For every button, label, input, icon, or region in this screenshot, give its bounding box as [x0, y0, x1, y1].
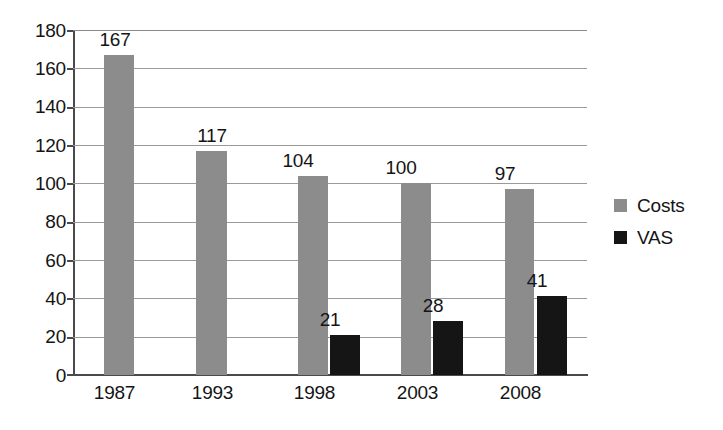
bar-value-label: 41	[501, 271, 573, 290]
bar-group	[93, 30, 179, 375]
bar-costs	[104, 55, 134, 375]
x-axis-tick-label: 2008	[478, 382, 563, 404]
x-axis-tick-label: 1998	[272, 382, 357, 404]
bar-vas	[330, 335, 360, 375]
legend: Costs VAS	[614, 190, 719, 254]
y-axis-tick-label: 60	[4, 251, 66, 270]
x-axis-tick-label: 1993	[170, 382, 255, 404]
bar-costs	[196, 151, 227, 375]
legend-item-vas: VAS	[614, 222, 719, 252]
bar-vas	[433, 321, 463, 375]
y-axis-tick-label: 120	[4, 136, 66, 155]
y-axis-tick-label: 0	[4, 366, 66, 385]
y-axis-tick-label: 140	[4, 97, 66, 116]
legend-item-costs: Costs	[614, 190, 719, 220]
bar-value-label: 100	[365, 158, 437, 177]
y-axis-tick-label: 20	[4, 327, 66, 346]
bar-value-label: 117	[176, 126, 248, 145]
legend-swatch-icon	[614, 199, 627, 212]
bar-value-label: 28	[397, 296, 469, 315]
y-axis-tick-label: 160	[4, 59, 66, 78]
bar-group	[398, 30, 484, 375]
y-axis-tick-label: 180	[4, 21, 66, 40]
y-axis-tick-label: 40	[4, 289, 66, 308]
bar-value-label: 104	[262, 151, 334, 170]
bar-chart: 180 160 140 120 100 80 60 40 20 0	[0, 0, 723, 430]
x-axis-tick-label: 2003	[375, 382, 460, 404]
bar-vas	[537, 296, 567, 375]
y-axis-tick-labels: 180 160 140 120 100 80 60 40 20 0	[0, 0, 66, 430]
bar-costs	[298, 176, 328, 375]
legend-label: VAS	[637, 228, 673, 247]
bar-group	[501, 30, 587, 375]
legend-swatch-icon	[614, 231, 627, 244]
bar-group	[195, 30, 281, 375]
bar-costs	[401, 183, 431, 375]
y-axis-tick-label: 100	[4, 174, 66, 193]
bar-value-label: 21	[294, 310, 366, 329]
bar-value-label: 167	[79, 30, 151, 49]
x-axis-tick-label: 1987	[72, 382, 157, 404]
y-axis-tick-label: 80	[4, 212, 66, 231]
legend-label: Costs	[637, 196, 685, 215]
bar-value-label: 97	[469, 164, 541, 183]
